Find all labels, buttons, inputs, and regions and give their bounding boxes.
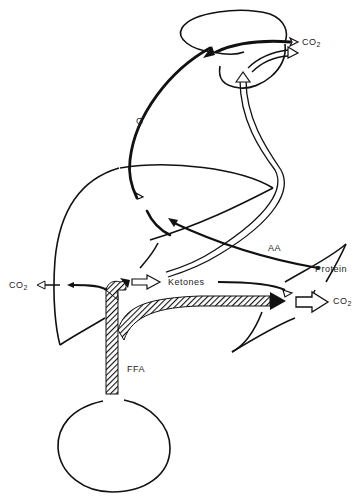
liver-co2-label: CO2 [9,280,28,291]
ffa-arrowhead-muscle [270,292,286,310]
ffa-curve-hatched [118,296,270,340]
amino-acids-label: AA [268,243,281,253]
protein-label: Protein [315,264,347,274]
adipose-outline [58,400,170,492]
ketones-to-muscle-flow [218,282,285,290]
aa-arrowhead [168,218,178,227]
liver-co2-arrowhead-outer [37,281,45,289]
liver-outline [54,165,273,345]
brain-co2-label: CO2 [302,37,321,48]
muscle-co2-hollow-arrow [296,292,328,312]
diagram-canvas [0,0,364,500]
ketones-hollow-arrow [132,275,160,289]
ketone-arrowhead-brain [236,72,250,82]
muscle-co2-label: CO2 [333,296,352,307]
glucose-label: G [136,116,144,126]
ffa-vertical-hatched [106,288,118,394]
liver-co2-flow [72,285,106,290]
ketone-arrowhead-muscle [283,290,292,297]
liver-co2-arrowhead-inner [67,282,74,288]
ffa-label: FFA [127,364,145,374]
co2-arrowhead-brain-2 [288,47,298,58]
brain-outline [181,10,287,88]
ketones-label: Ketones [168,277,205,287]
glucose-flow [129,41,290,235]
